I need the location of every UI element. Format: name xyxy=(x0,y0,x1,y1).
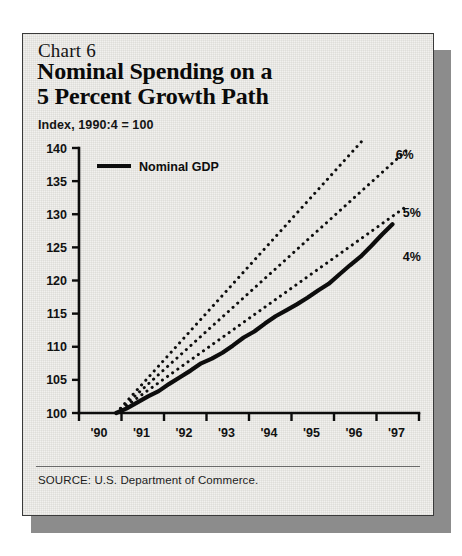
x-axis-tick-label: '91 xyxy=(133,426,150,440)
x-axis-tick-label: '97 xyxy=(388,426,405,440)
growth-path-label: 5% xyxy=(403,206,421,220)
y-axis-tick-label: 135 xyxy=(46,175,67,189)
page-title: Nominal Spending on a 5 Percent Growth P… xyxy=(37,59,427,109)
chart-plot-svg: 100105110115120125130135140'90'91'92'93'… xyxy=(23,140,433,470)
legend-label-nominal-gdp: Nominal GDP xyxy=(139,160,219,174)
y-axis-tick-label: 110 xyxy=(47,340,67,354)
figure-root: Chart 6 Nominal Spending on a 5 Percent … xyxy=(0,0,462,556)
y-axis-tick-label: 115 xyxy=(47,307,67,321)
y-axis-tick-label: 125 xyxy=(46,241,67,255)
source-divider xyxy=(36,466,420,467)
x-axis-tick-label: '90 xyxy=(91,426,108,440)
y-axis-tick-label: 100 xyxy=(46,407,67,421)
plot-area: 100105110115120125130135140'90'91'92'93'… xyxy=(23,140,433,470)
series-line xyxy=(116,149,408,413)
growth-path-label: 6% xyxy=(396,148,414,162)
x-axis-tick-label: '92 xyxy=(176,426,193,440)
y-axis-tick-label: 140 xyxy=(46,142,67,156)
panel-shadow-right xyxy=(434,50,451,533)
x-axis-tick-label: '95 xyxy=(303,426,320,440)
chart-title-line-2: 5 Percent Growth Path xyxy=(37,84,427,109)
series-line xyxy=(116,140,408,413)
x-axis-tick-label: '96 xyxy=(346,426,363,440)
growth-path-label: 4% xyxy=(403,250,421,264)
chart-panel: Chart 6 Nominal Spending on a 5 Percent … xyxy=(22,33,434,516)
chart-subtitle: Index, 1990:4 = 100 xyxy=(38,118,154,132)
chart-title-line-1: Nominal Spending on a xyxy=(37,59,427,84)
x-axis-tick-label: '94 xyxy=(261,426,278,440)
y-axis-tick-label: 120 xyxy=(46,274,67,288)
y-axis-tick-label: 130 xyxy=(46,208,67,222)
series-line xyxy=(116,205,408,413)
x-axis-tick-label: '93 xyxy=(218,426,235,440)
y-axis-tick-label: 105 xyxy=(46,373,67,387)
panel-shadow-bottom xyxy=(31,516,451,533)
source-note: SOURCE: U.S. Department of Commerce. xyxy=(38,474,258,486)
